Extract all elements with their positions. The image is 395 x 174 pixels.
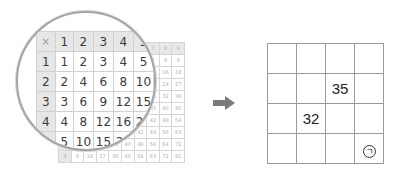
magnified-table-cell: 5	[55, 132, 73, 152]
answer-grid-cell: 35	[326, 74, 355, 104]
answer-grid-cell: 32	[297, 104, 326, 134]
magnified-table-cell: 10	[73, 132, 93, 152]
back-table-cell: 40	[159, 103, 172, 115]
back-table-header-cell: 8	[159, 43, 172, 55]
magnified-table-row: 448121620	[37, 112, 154, 132]
magnified-table-cell: 10	[133, 72, 153, 92]
right-arrow-icon	[213, 96, 235, 110]
answer-grid-row	[268, 44, 384, 74]
back-table-cell: 16	[159, 67, 172, 79]
answer-grid-cell	[326, 134, 355, 164]
magnified-table-cell: 6	[93, 72, 113, 92]
back-table-cell: 27	[96, 151, 109, 163]
magnified-table-row-header-cell: 5	[37, 132, 56, 152]
answer-grid-cell	[326, 104, 355, 134]
back-table-cell: 18	[84, 151, 97, 163]
answer-grid-cell	[297, 74, 326, 104]
magnified-table-cell: 9	[93, 92, 113, 112]
answer-grid-cell	[355, 44, 384, 74]
magnified-table-cell: 12	[113, 92, 133, 112]
back-table-cell: 45	[172, 103, 185, 115]
back-table-cell: 27	[172, 79, 185, 91]
magnified-table-cell: 16	[113, 112, 133, 132]
magnified-multiplication-table: ×123451123452246810336912154481216205510…	[36, 31, 154, 151]
magnified-table-cell: 15	[93, 132, 113, 152]
magnifying-glass: ×123451123452246810336912154481216205510…	[16, 11, 156, 151]
answer-grid-cell	[297, 134, 326, 164]
answer-grid-cell	[355, 74, 384, 104]
magnified-table-row: 2246810	[37, 72, 154, 92]
magnified-table-cell: 4	[113, 52, 133, 72]
magnified-table-row-header-cell: 3	[37, 92, 56, 112]
back-table-cell: 63	[172, 127, 185, 139]
magnified-table-row: 5510152025	[37, 132, 154, 152]
answer-grid-cell: ㄱ	[355, 134, 384, 164]
magnified-table-cell: 4	[73, 72, 93, 92]
back-table-header-cell: 9	[172, 43, 185, 55]
back-table-cell: 8	[159, 55, 172, 67]
magnified-table-header-cell: 5	[133, 32, 153, 52]
magnified-table-header-cell: ×	[37, 32, 56, 52]
magnified-table-cell: 12	[93, 112, 113, 132]
magnified-table-cell: 8	[113, 72, 133, 92]
back-table-cell: 72	[159, 151, 172, 163]
magnified-table-row-header-cell: 1	[37, 52, 56, 72]
magnified-table-cell: 8	[73, 112, 93, 132]
magnified-table-row-header-cell: 4	[37, 112, 56, 132]
answer-grid-cell	[268, 44, 297, 74]
back-table-cell: 45	[121, 151, 134, 163]
answer-grid-cell	[297, 44, 326, 74]
magnified-table-cell: 3	[55, 92, 73, 112]
back-table-cell: 81	[172, 151, 185, 163]
back-table-cell: 9	[172, 55, 185, 67]
magnified-table-cell: 3	[93, 52, 113, 72]
magnified-table-cell: 5	[133, 52, 153, 72]
back-table-cell: 64	[159, 139, 172, 151]
magnified-table-cell: 15	[133, 92, 153, 112]
back-table-cell: 54	[172, 115, 185, 127]
answer-grid-row: 35	[268, 74, 384, 104]
magnified-table-cell: 1	[55, 52, 73, 72]
back-table-cell: 24	[159, 79, 172, 91]
answer-grid-cell	[355, 104, 384, 134]
answer-grid-cell	[268, 134, 297, 164]
answer-grid-cell	[268, 74, 297, 104]
magnified-table-row: 33691215	[37, 92, 154, 112]
magnified-table-header-cell: 1	[55, 32, 73, 52]
magnified-table-cell: 20	[133, 112, 153, 132]
back-table-cell: 56	[159, 127, 172, 139]
back-table-cell: 54	[134, 151, 147, 163]
magnified-table-cell: 4	[55, 112, 73, 132]
back-table-cell: 48	[159, 115, 172, 127]
answer-grid-row: ㄱ	[268, 134, 384, 164]
back-table-cell: 32	[159, 91, 172, 103]
back-table-row: 991827364554637281	[59, 151, 185, 163]
magnified-table-header-cell: 4	[113, 32, 133, 52]
back-table-cell: 36	[172, 91, 185, 103]
answer-grid-cell	[268, 104, 297, 134]
magnified-table-cell: 20	[113, 132, 133, 152]
answer-grid-row: 32	[268, 104, 384, 134]
magnified-table-cell: 2	[73, 52, 93, 72]
magnified-table-cell: 2	[55, 72, 73, 92]
magnified-table-header-cell: 2	[73, 32, 93, 52]
magnified-table-row: ×12345	[37, 32, 154, 52]
circled-label-marker: ㄱ	[363, 145, 376, 158]
magnified-table-row: 112345	[37, 52, 154, 72]
back-table-cell: 9	[71, 151, 84, 163]
magnified-table-header-cell: 3	[93, 32, 113, 52]
back-table-cell: 36	[109, 151, 122, 163]
magnified-table-row-header-cell: 2	[37, 72, 56, 92]
back-table-cell: 18	[172, 67, 185, 79]
magnified-table-cell: 6	[73, 92, 93, 112]
back-table-cell: 72	[172, 139, 185, 151]
answer-grid-cell	[326, 44, 355, 74]
back-table-cell: 63	[147, 151, 160, 163]
back-table-row-header-cell: 9	[59, 151, 72, 163]
answer-grid: 3532ㄱ	[267, 43, 384, 164]
magnified-table-cell: 25	[133, 132, 153, 152]
